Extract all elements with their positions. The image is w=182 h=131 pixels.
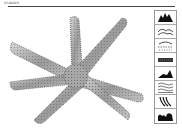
palette-item-bushes-silhouette[interactable] [155,109,176,123]
header-divider [8,6,175,7]
palette-item-scattered-dots[interactable] [155,39,176,53]
header-title: vrauon [4,0,19,5]
palette-item-curved-strokes[interactable] [155,95,176,109]
starfish-image [4,10,150,128]
palette-item-hills-dots[interactable] [155,25,176,39]
palette-item-mountain-peaks[interactable] [155,11,176,25]
scattered-dots-icon [157,40,174,51]
mountain-peaks-icon [157,12,174,23]
palette-item-brick-band[interactable] [155,53,176,67]
curved-strokes-icon [157,96,174,107]
palette-item-waves-lines[interactable] [155,81,176,95]
texture-palette [154,10,177,124]
hills-dots-icon [157,26,174,37]
bushes-silhouette-icon [157,111,174,122]
palette-item-hill-silhouette[interactable] [155,67,176,81]
brick-band-icon [157,54,174,65]
drawing-canvas[interactable] [4,10,150,128]
waves-lines-icon [157,82,174,93]
hill-silhouette-icon [157,68,174,79]
